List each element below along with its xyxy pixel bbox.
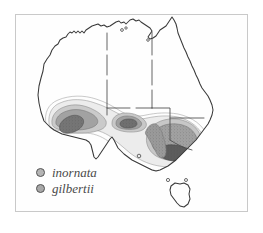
- island-speck-3: [121, 29, 124, 32]
- tasmania-coastline: [170, 183, 190, 207]
- island-speck-4: [125, 27, 127, 29]
- island-speck-1: [166, 178, 169, 181]
- island-speck-2: [185, 179, 188, 182]
- circle-marker-icon-inornata: [36, 168, 45, 177]
- species-legend: inornata gilbertii: [36, 165, 131, 197]
- legend-label-gilbertii: gilbertii: [52, 182, 94, 195]
- legend-item-inornata: inornata: [36, 165, 131, 180]
- circle-marker-icon-gilbertii: [36, 184, 45, 193]
- distribution-shading: [46, 96, 209, 172]
- island-speck-5: [147, 39, 150, 42]
- map-area: [0, 0, 263, 233]
- figure-container: inornata gilbertii: [0, 0, 263, 233]
- legend-item-gilbertii: gilbertii: [36, 181, 131, 196]
- australia-distribution-map: [0, 0, 263, 233]
- legend-label-inornata: inornata: [52, 166, 97, 179]
